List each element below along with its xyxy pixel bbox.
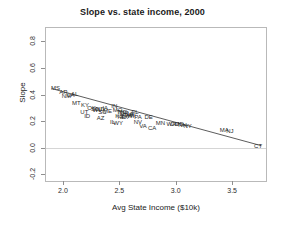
data-point-label: VA — [139, 123, 147, 129]
y-axis-tick-label: 0.2 — [29, 116, 36, 126]
data-point-label: AL — [71, 91, 78, 97]
y-axis-tick-label: 0.6 — [29, 63, 36, 73]
x-axis-tick — [119, 181, 120, 185]
y-axis-tick — [41, 148, 45, 149]
y-axis-tick — [41, 121, 45, 122]
data-point-label: AZ — [97, 115, 105, 121]
y-axis-tick — [41, 95, 45, 96]
y-axis-tick-label: 0.4 — [29, 90, 36, 100]
plot-area: MSARNMLAALMTKYUTIDOKSDWVNDSCIAMEAZINMOTN… — [46, 28, 266, 181]
y-axis-tick — [41, 174, 45, 175]
y-axis-label: Slope — [18, 82, 27, 102]
chart-screenshot: Slope vs. state income, 2000 MSARNMLAALM… — [0, 0, 285, 227]
y-axis-tick-label: 0.0 — [29, 143, 36, 153]
x-axis-tick — [232, 181, 233, 185]
data-point-label: DE — [144, 114, 152, 120]
data-point-label: MN — [156, 120, 165, 126]
data-point-label: MT — [72, 100, 81, 106]
x-axis-label: Avg State Income ($10k) — [45, 203, 267, 212]
data-point-label: NY — [183, 123, 191, 129]
y-axis-tick — [41, 41, 45, 42]
x-axis-tick — [176, 181, 177, 185]
y-axis-tick-label: 0.8 — [29, 36, 36, 46]
y-axis-tick-label: -0.2 — [29, 168, 36, 180]
data-point-label: CT — [254, 143, 262, 149]
x-axis-tick-label: 3.0 — [171, 187, 181, 194]
data-point-label: WY — [113, 120, 123, 126]
x-axis-tick-label: 2.5 — [114, 187, 124, 194]
x-axis-tick-label: 3.5 — [227, 187, 237, 194]
x-axis-tick-label: 2.0 — [58, 187, 68, 194]
x-axis-tick — [63, 181, 64, 185]
data-point-label: NJ — [226, 128, 233, 134]
y-axis-tick — [41, 68, 45, 69]
chart-title: Slope vs. state income, 2000 — [0, 7, 285, 17]
data-point-label: ID — [84, 113, 90, 119]
